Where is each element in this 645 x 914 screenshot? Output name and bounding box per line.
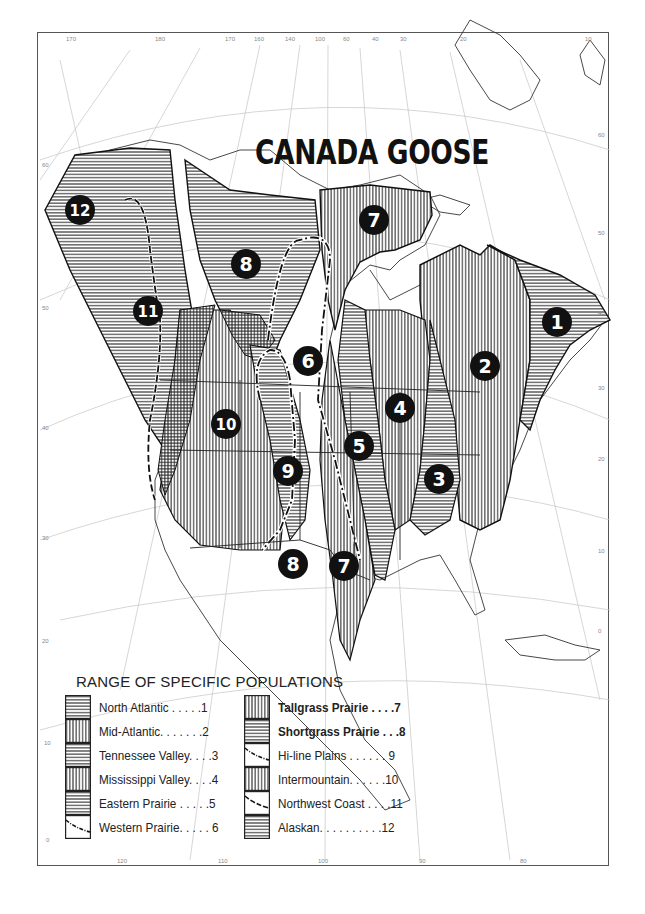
legend-item-hi-line-plains: Hi-line Plains . . . . . . 9 bbox=[244, 743, 408, 767]
vertical-hatch-icon bbox=[244, 695, 270, 719]
legend-label: Tennessee Valley. . . .3 bbox=[99, 748, 218, 763]
dash-line-icon bbox=[244, 791, 270, 815]
legend-label: Mississippi Valley. . . .4 bbox=[99, 772, 218, 787]
svg-text:8: 8 bbox=[239, 253, 252, 275]
badge-11: 11 bbox=[133, 296, 163, 326]
horizontal-hatch-icon bbox=[244, 719, 270, 743]
legend-label: Alaskan. . . . . . . . . .12 bbox=[278, 820, 394, 835]
tick-left-6: 0 bbox=[46, 837, 49, 843]
badge-5: 5 bbox=[344, 431, 374, 461]
tick-bottom-0: 120 bbox=[117, 858, 127, 864]
tick-left-0: 60 bbox=[42, 162, 49, 168]
tick-top-2: 170 bbox=[225, 36, 235, 42]
badge-2: 2 bbox=[470, 351, 500, 381]
badge-3: 3 bbox=[424, 464, 454, 494]
badge-4: 4 bbox=[385, 393, 415, 423]
svg-text:11: 11 bbox=[138, 303, 159, 321]
tick-left-4: 20 bbox=[42, 638, 49, 644]
legend-item-eastern-prairie: Eastern Prairie . . . . .5 bbox=[65, 791, 228, 815]
legend-label: Shortgrass Prairie . . .8 bbox=[278, 724, 405, 739]
legend-label: Northwest Coast . . . .11 bbox=[278, 796, 403, 811]
tick-right-4: 20 bbox=[598, 456, 605, 462]
tick-right-3: 30 bbox=[598, 385, 605, 391]
svg-text:10: 10 bbox=[216, 416, 237, 434]
tick-top-7: 40 bbox=[372, 36, 379, 42]
badge-10: 10 bbox=[211, 409, 241, 439]
tick-top-6: 60 bbox=[343, 36, 350, 42]
tick-left-5: 10 bbox=[44, 740, 51, 746]
svg-text:1: 1 bbox=[550, 311, 563, 333]
badge-8-south: 8 bbox=[278, 549, 308, 579]
tick-left-3: 30 bbox=[42, 535, 49, 541]
legend-item-shortgrass-prairie: Shortgrass Prairie . . .8 bbox=[244, 719, 420, 743]
legend-item-tennessee-valley: Tennessee Valley. . . .3 bbox=[65, 743, 231, 767]
badge-8-north: 8 bbox=[231, 249, 261, 279]
horizontal-hatch-icon bbox=[65, 695, 91, 719]
dash-dot-line-icon bbox=[244, 743, 270, 767]
svg-text:5: 5 bbox=[352, 435, 365, 457]
legend-label: Tallgrass Prairie . . . .7 bbox=[278, 700, 401, 715]
tick-top-1: 180 bbox=[155, 36, 165, 42]
tick-top-3: 160 bbox=[254, 36, 264, 42]
tick-left-1: 50 bbox=[42, 305, 49, 311]
legend-label: North Atlantic . . . . .1 bbox=[99, 700, 208, 715]
legend-label: Western Prairie. . . . . 6 bbox=[99, 820, 218, 835]
tick-right-0: 60 bbox=[598, 132, 605, 138]
svg-text:7: 7 bbox=[367, 209, 380, 231]
horizontal-hatch-icon bbox=[244, 815, 270, 839]
horizontal-hatch-icon bbox=[65, 743, 91, 767]
tick-right-5: 10 bbox=[598, 548, 605, 554]
tick-bottom-2: 100 bbox=[318, 858, 328, 864]
legend-item-intermountain: Intermountain. . . . . .10 bbox=[244, 767, 412, 791]
legend-item-western-prairie: Western Prairie. . . . . 6 bbox=[65, 815, 232, 839]
legend-label: Eastern Prairie . . . . .5 bbox=[99, 796, 215, 811]
tick-bottom-3: 90 bbox=[419, 858, 426, 864]
tick-top-5: 100 bbox=[315, 36, 325, 42]
badge-7-north: 7 bbox=[359, 205, 389, 235]
badge-9: 9 bbox=[273, 456, 303, 486]
legend-label: Intermountain. . . . . .10 bbox=[278, 772, 398, 787]
legend-item-tallgrass-prairie: Tallgrass Prairie . . . .7 bbox=[244, 695, 414, 719]
svg-text:3: 3 bbox=[432, 468, 445, 490]
svg-text:4: 4 bbox=[393, 397, 406, 419]
legend-label: Mid-Atlantic. . . . . . .2 bbox=[99, 724, 209, 739]
legend-item-north-atlantic: North Atlantic . . . . .1 bbox=[65, 695, 220, 719]
tick-right-6: 0 bbox=[598, 628, 601, 634]
svg-text:7: 7 bbox=[337, 555, 350, 577]
tick-top-9: 20 bbox=[460, 36, 467, 42]
vertical-hatch-icon bbox=[244, 767, 270, 791]
vertical-hatch-icon bbox=[65, 719, 91, 743]
legend-item-mississippi-valley: Mississippi Valley. . . .4 bbox=[65, 767, 231, 791]
badge-12: 12 bbox=[65, 195, 95, 225]
svg-text:6: 6 bbox=[301, 350, 314, 372]
tick-top-0: 170 bbox=[66, 36, 76, 42]
svg-text:2: 2 bbox=[478, 355, 491, 377]
svg-text:8: 8 bbox=[286, 553, 299, 575]
legend-title: RANGE OF SPECIFIC POPULATIONS bbox=[76, 673, 343, 690]
dash-dot-line-icon bbox=[65, 815, 91, 839]
legend-label: Hi-line Plains . . . . . . 9 bbox=[278, 748, 395, 763]
svg-text:9: 9 bbox=[281, 460, 294, 482]
tick-left-2: 40 bbox=[42, 425, 49, 431]
tick-top-8: 30 bbox=[400, 36, 407, 42]
legend-item-northwest-coast: Northwest Coast . . . .11 bbox=[244, 791, 416, 815]
legend-item-mid-atlantic: Mid-Atlantic. . . . . . .2 bbox=[65, 719, 221, 743]
map-title: CANADA GOOSE bbox=[255, 132, 489, 172]
badge-7-south: 7 bbox=[329, 551, 359, 581]
horizontal-hatch-icon bbox=[65, 791, 91, 815]
tick-top-10: 10 bbox=[585, 36, 592, 42]
badge-6: 6 bbox=[293, 346, 323, 376]
tick-top-4: 140 bbox=[285, 36, 295, 42]
tick-bottom-4: 80 bbox=[520, 858, 527, 864]
svg-text:12: 12 bbox=[70, 202, 91, 220]
tick-bottom-1: 110 bbox=[218, 858, 228, 864]
legend-item-alaskan: Alaskan. . . . . . . . . .12 bbox=[244, 815, 407, 839]
badge-1: 1 bbox=[542, 307, 572, 337]
tick-right-2: 40 bbox=[598, 310, 605, 316]
vertical-hatch-icon bbox=[65, 767, 91, 791]
tick-right-1: 50 bbox=[598, 230, 605, 236]
